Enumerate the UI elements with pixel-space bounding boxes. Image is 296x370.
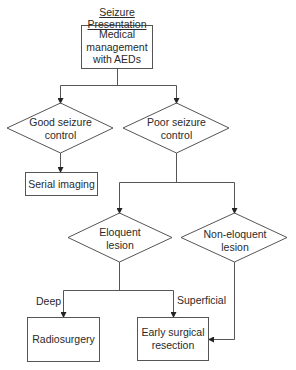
- edge-start-split: [61, 68, 177, 86]
- node-eloquent: Eloquent lesion: [70, 226, 170, 251]
- node-noneloquent-line: Non-eloquent: [184, 228, 286, 241]
- diagram-title: Seizure Presentation: [71, 6, 163, 30]
- node-serial: Serial imaging: [25, 178, 98, 191]
- edge-poor-split: [120, 153, 235, 183]
- node-poor-line: control: [126, 129, 227, 142]
- node-noneloquent: Non-eloquent lesion: [184, 228, 286, 253]
- node-resection: Early surgical resection: [137, 326, 209, 351]
- node-start-line: management: [81, 41, 153, 54]
- node-resection-line: resection: [137, 339, 209, 352]
- node-resection-line: Early surgical: [137, 326, 209, 339]
- node-eloquent-line: Eloquent: [70, 226, 170, 239]
- edge-eloquent-split: [64, 262, 174, 291]
- node-start-line: with AEDs: [81, 53, 153, 66]
- node-poor: Poor seizure control: [126, 116, 227, 141]
- node-poor-line: Poor seizure: [126, 116, 227, 129]
- node-good-line: control: [10, 129, 111, 142]
- node-eloquent-line: lesion: [70, 239, 170, 252]
- node-good: Good seizure control: [10, 116, 111, 141]
- node-radio: Radiosurgery: [27, 333, 100, 346]
- node-noneloquent-line: lesion: [184, 241, 286, 254]
- node-good-line: Good seizure: [10, 116, 111, 129]
- edge-label-deep: Deep: [36, 295, 61, 307]
- node-start-line: Medical: [81, 28, 153, 41]
- edge-label-superficial: Superficial: [177, 294, 226, 306]
- node-start: Medical management with AEDs: [81, 28, 153, 66]
